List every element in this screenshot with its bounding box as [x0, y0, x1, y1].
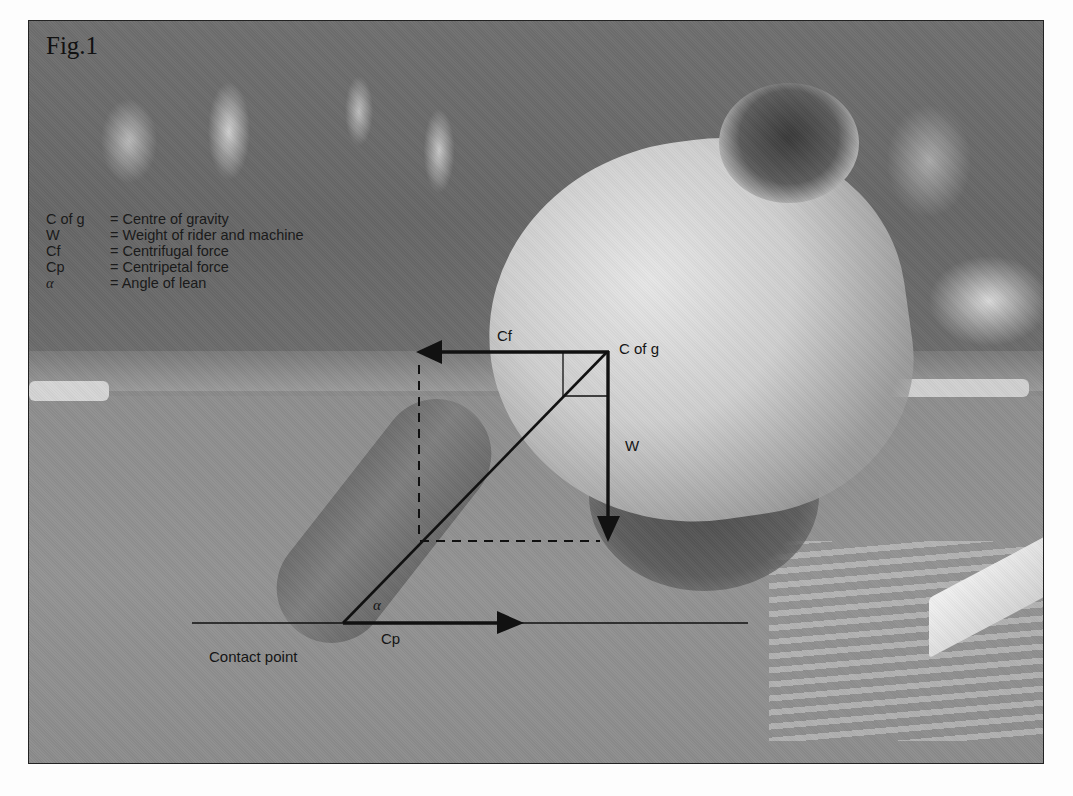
force-diagram — [0, 0, 1073, 796]
cp-label: Cp — [381, 630, 400, 647]
cofg-label: C of g — [619, 340, 659, 357]
cp-arrowhead-icon — [497, 611, 524, 634]
alpha-label: α — [373, 597, 381, 614]
contact-point-label: Contact point — [209, 648, 297, 665]
w-arrowhead-icon — [597, 516, 620, 542]
lean-line — [343, 352, 607, 623]
cf-label: Cf — [497, 327, 512, 344]
w-label: W — [625, 437, 639, 454]
cf-arrowhead-icon — [416, 340, 442, 364]
truncated-body-text — [0, 786, 1073, 796]
